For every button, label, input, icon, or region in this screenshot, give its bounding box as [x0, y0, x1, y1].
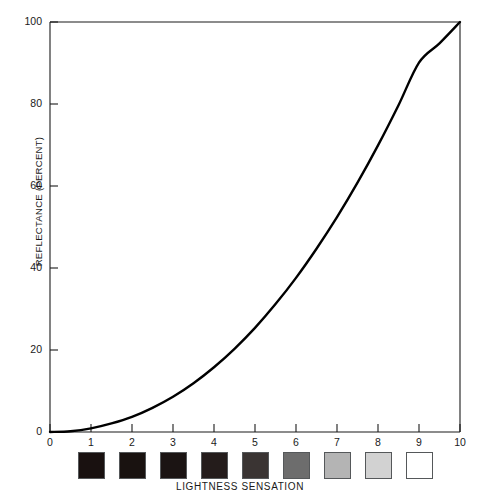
plot-canvas [0, 0, 480, 501]
lightness-swatch-3 [160, 452, 187, 479]
x-tick-label-0: 0 [35, 436, 65, 448]
x-axis-ticks [50, 424, 460, 432]
x-tick-label-8: 8 [363, 436, 393, 448]
lightness-swatch-4 [201, 452, 228, 479]
lightness-swatch-5 [242, 452, 269, 479]
x-tick-label-1: 1 [76, 436, 106, 448]
reflectance-curve [50, 22, 460, 432]
lightness-swatch-1 [78, 452, 105, 479]
lightness-swatch-7 [324, 452, 351, 479]
lightness-swatch-8 [365, 452, 392, 479]
x-tick-label-5: 5 [240, 436, 270, 448]
lightness-swatch-6 [283, 452, 310, 479]
reflectance-lightness-chart: REFLECTANCE (PERCENT) 100 80 60 40 20 0 … [0, 0, 480, 501]
y-tick-label-20: 20 [8, 343, 42, 355]
y-tick-label-60: 60 [8, 179, 42, 191]
y-tick-label-100: 100 [8, 15, 42, 27]
x-tick-label-6: 6 [281, 436, 311, 448]
x-tick-label-2: 2 [117, 436, 147, 448]
x-tick-label-10: 10 [445, 436, 475, 448]
y-tick-label-40: 40 [8, 261, 42, 273]
x-tick-label-3: 3 [158, 436, 188, 448]
y-axis-ticks [50, 22, 58, 432]
x-tick-label-9: 9 [404, 436, 434, 448]
x-axis-label: LIGHTNESS SENSATION [0, 481, 480, 492]
axis-frame [50, 22, 460, 432]
y-tick-label-80: 80 [8, 97, 42, 109]
x-tick-label-4: 4 [199, 436, 229, 448]
lightness-swatch-9 [406, 452, 433, 479]
x-tick-label-7: 7 [322, 436, 352, 448]
lightness-swatch-2 [119, 452, 146, 479]
